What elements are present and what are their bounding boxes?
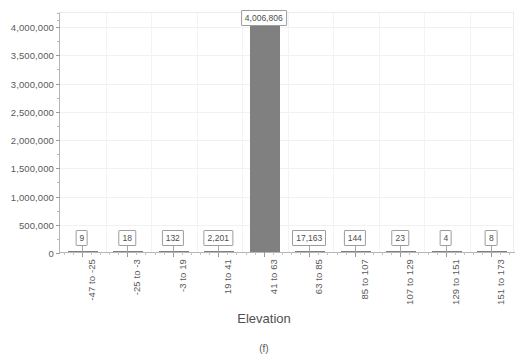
- x-axis-minor-tick: [291, 252, 292, 255]
- y-axis-minor-tick: [57, 182, 60, 183]
- y-axis-minor-tick: [57, 41, 60, 42]
- x-axis-minor-tick: [455, 252, 456, 255]
- y-axis-minor-tick: [57, 126, 60, 127]
- bar-value-label: 132: [162, 230, 184, 246]
- gridline-vertical: [151, 13, 152, 252]
- x-axis-minor-tick: [373, 252, 374, 255]
- y-axis-tick: [56, 27, 60, 28]
- figure-caption: (f): [0, 343, 528, 354]
- x-axis-category-label: -3 to 19: [177, 259, 188, 292]
- x-axis-minor-tick: [164, 252, 165, 255]
- x-axis-minor-tick: [136, 252, 137, 255]
- y-axis-tick: [56, 84, 60, 85]
- gridline-vertical: [106, 13, 107, 252]
- gridline-vertical: [333, 13, 334, 252]
- y-axis-tick-label: 4,000,000: [11, 22, 54, 33]
- y-axis-tick: [56, 168, 60, 169]
- x-axis-minor-tick: [500, 252, 501, 255]
- x-axis-tick: [218, 252, 219, 257]
- figure-panel: 0500,0001,000,0001,500,0002,000,0002,500…: [0, 0, 528, 364]
- gridline-horizontal: [60, 225, 513, 226]
- gridline-vertical: [379, 13, 380, 252]
- plot-area: 0500,0001,000,0001,500,0002,000,0002,500…: [59, 12, 514, 252]
- x-axis-minor-tick: [300, 252, 301, 255]
- x-axis-category-label: 41 to 63: [268, 259, 279, 294]
- x-axis-minor-tick: [418, 252, 419, 255]
- y-axis-tick: [56, 112, 60, 113]
- y-axis-tick-label: 2,000,000: [11, 135, 54, 146]
- bar-value-label: 9: [75, 230, 88, 246]
- x-axis-minor-tick: [255, 252, 256, 255]
- x-axis-minor-tick: [346, 252, 347, 255]
- x-axis-tick: [446, 252, 447, 257]
- x-axis-tick: [491, 252, 492, 257]
- x-axis-minor-tick: [100, 252, 101, 255]
- x-axis-minor-tick: [73, 252, 74, 255]
- x-axis-tick: [400, 252, 401, 257]
- y-axis-minor-tick: [57, 154, 60, 155]
- gridline-horizontal: [60, 197, 513, 198]
- y-axis-minor-tick: [57, 69, 60, 70]
- x-axis-minor-tick: [191, 252, 192, 255]
- y-axis-minor-tick: [57, 20, 60, 21]
- y-axis-tick-label: 3,500,000: [11, 50, 54, 61]
- x-axis-category-label: -25 to -3: [131, 259, 142, 295]
- bar[interactable]: [250, 26, 280, 252]
- x-axis-category-label: 129 to 151: [450, 259, 461, 305]
- gridline-horizontal: [60, 140, 513, 141]
- y-axis-minor-tick: [57, 211, 60, 212]
- bar-value-label: 17,163: [292, 230, 326, 246]
- x-axis-minor-tick: [464, 252, 465, 255]
- x-axis-minor-tick: [327, 252, 328, 255]
- x-axis-minor-tick: [64, 252, 65, 255]
- y-axis-minor-tick: [57, 13, 60, 14]
- x-axis-category-label: 85 to 107: [359, 259, 370, 300]
- y-axis-tick-label: 1,500,000: [11, 163, 54, 174]
- gridline-vertical: [424, 13, 425, 252]
- x-axis-tick: [82, 252, 83, 257]
- gridline-horizontal: [60, 55, 513, 56]
- x-axis-minor-tick: [391, 252, 392, 255]
- bar-value-label: 144: [344, 230, 366, 246]
- x-axis-category-label: 19 to 41: [222, 259, 233, 294]
- x-axis-minor-tick: [145, 252, 146, 255]
- y-axis-tick-label: 500,000: [19, 219, 54, 230]
- y-axis-tick: [56, 197, 60, 198]
- x-axis-tick: [355, 252, 356, 257]
- bar-value-label: 2,201: [204, 230, 233, 246]
- y-axis-tick-label: 1,000,000: [11, 191, 54, 202]
- x-axis-category-label: 107 to 129: [404, 259, 415, 305]
- x-axis-minor-tick: [273, 252, 274, 255]
- x-axis-minor-tick: [482, 252, 483, 255]
- y-axis-minor-tick: [57, 239, 60, 240]
- y-axis-tick: [56, 253, 60, 254]
- gridline-horizontal: [60, 168, 513, 169]
- x-axis-minor-tick: [473, 252, 474, 255]
- x-axis-tick: [264, 252, 265, 257]
- x-axis-minor-tick: [209, 252, 210, 255]
- x-axis-minor-tick: [409, 252, 410, 255]
- y-axis-tick-label: 2,500,000: [11, 106, 54, 117]
- x-axis-minor-tick: [364, 252, 365, 255]
- x-axis-category-label: -47 to -25: [86, 259, 97, 301]
- x-axis-minor-tick: [118, 252, 119, 255]
- bar-value-label: 4,006,806: [241, 10, 287, 26]
- x-axis-minor-tick: [437, 252, 438, 255]
- x-axis-minor-tick: [509, 252, 510, 255]
- x-axis-tick: [309, 252, 310, 257]
- gridline-vertical: [470, 13, 471, 252]
- x-axis-minor-tick: [91, 252, 92, 255]
- x-axis-tick: [127, 252, 128, 257]
- x-axis-tick: [173, 252, 174, 257]
- bar-value-label: 8: [485, 230, 498, 246]
- x-axis-minor-tick: [200, 252, 201, 255]
- x-axis-title: Elevation: [0, 311, 528, 326]
- gridline-horizontal: [60, 27, 513, 28]
- x-axis-minor-tick: [155, 252, 156, 255]
- y-axis-tick: [56, 55, 60, 56]
- x-axis-minor-tick: [318, 252, 319, 255]
- x-axis-minor-tick: [282, 252, 283, 255]
- y-axis-tick: [56, 140, 60, 141]
- x-axis-minor-tick: [337, 252, 338, 255]
- gridline-vertical: [197, 13, 198, 252]
